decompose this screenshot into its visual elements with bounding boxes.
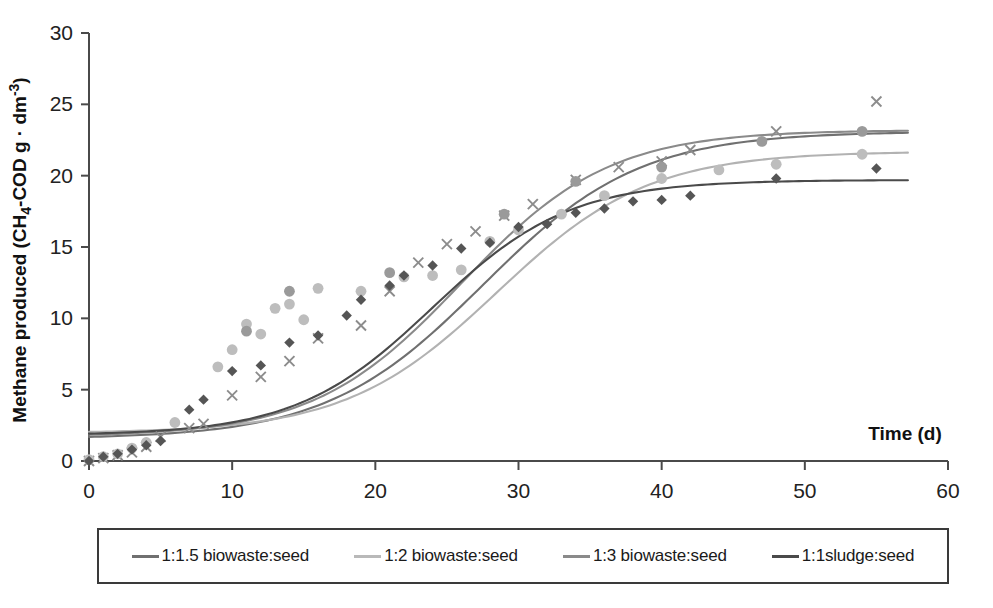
- fitted-curve: [89, 131, 908, 435]
- data-point: [155, 436, 165, 446]
- y-tick-label: 20: [50, 164, 73, 187]
- x-tick-label: 50: [793, 479, 816, 502]
- data-point: [356, 295, 366, 305]
- data-point: [628, 196, 638, 206]
- y-tick-label: 30: [50, 21, 73, 44]
- x-axis-ticks: 0102030405060: [83, 461, 960, 502]
- fitted-curve: [89, 133, 908, 437]
- data-point: [570, 176, 581, 187]
- data-point: [656, 162, 667, 173]
- x-axis-title: Time (d): [868, 423, 942, 444]
- data-point: [871, 163, 881, 173]
- data-point: [456, 243, 466, 253]
- x-tick-label: 30: [507, 479, 530, 502]
- x-tick-label: 20: [364, 479, 387, 502]
- y-tick-label: 10: [50, 306, 73, 329]
- data-point: [857, 149, 868, 160]
- data-markers-group: [84, 96, 882, 466]
- data-point: [871, 96, 881, 106]
- data-point: [342, 310, 352, 320]
- x-tick-label: 0: [83, 479, 95, 502]
- legend-entry-2[interactable]: 1:2 biowaste:seed: [354, 546, 518, 566]
- data-point: [857, 126, 868, 137]
- data-point: [656, 173, 667, 184]
- x-tick-label: 40: [650, 479, 673, 502]
- data-point: [241, 326, 252, 337]
- data-point: [427, 260, 437, 270]
- data-point: [256, 360, 266, 370]
- y-axis-ticks: 051015202530: [50, 21, 89, 472]
- legend-line-swatch: [772, 555, 799, 558]
- data-point: [384, 267, 395, 278]
- fitted-curves-group: [89, 131, 908, 437]
- data-point: [685, 190, 695, 200]
- data-point: [771, 159, 782, 170]
- legend-entry-3[interactable]: 1:3 biowaste:seed: [563, 546, 727, 566]
- data-point: [427, 270, 438, 281]
- data-point: [184, 404, 194, 414]
- data-point: [270, 303, 281, 314]
- legend-label: 1:1.5 biowaste:seed: [162, 546, 309, 566]
- legend-entry-1[interactable]: 1:1.5 biowaste:seed: [132, 546, 309, 566]
- y-axis-title: Methane produced (CH4-COD g · dm-3): [6, 77, 34, 422]
- legend-label: 1:3 biowaste:seed: [593, 546, 727, 566]
- x-tick-label: 60: [936, 479, 959, 502]
- legend-line-swatch: [563, 555, 590, 558]
- y-tick-label: 25: [50, 92, 73, 115]
- data-point: [284, 356, 294, 366]
- y-tick-label: 15: [50, 235, 73, 258]
- data-point: [313, 330, 323, 340]
- methane-production-chart: 051015202530 0102030405060 Methane produ…: [0, 0, 993, 608]
- data-point: [471, 226, 481, 236]
- data-point: [599, 190, 610, 201]
- data-point: [298, 314, 309, 325]
- data-point: [227, 344, 238, 355]
- legend-line-swatch: [132, 555, 159, 558]
- legend-entry-4[interactable]: 1:1sludge:seed: [772, 546, 915, 566]
- data-point: [198, 394, 208, 404]
- legend-line-swatch: [354, 555, 381, 558]
- legend-label: 1:2 biowaste:seed: [384, 546, 518, 566]
- fitted-curve: [89, 153, 908, 432]
- data-point: [227, 366, 237, 376]
- data-point: [212, 361, 223, 372]
- x-tick-label: 10: [220, 479, 243, 502]
- data-point: [313, 283, 324, 294]
- legend-label: 1:1sludge:seed: [802, 546, 915, 566]
- data-point: [256, 372, 266, 382]
- data-point: [556, 209, 567, 220]
- data-point: [714, 165, 725, 176]
- y-tick-label: 0: [61, 449, 73, 472]
- y-tick-label: 5: [61, 378, 73, 401]
- data-point: [456, 264, 467, 275]
- chart-legend: 1:1.5 biowaste:seed1:2 biowaste:seed1:3 …: [97, 528, 949, 584]
- data-point: [756, 136, 767, 147]
- data-point: [170, 417, 181, 428]
- data-point: [284, 286, 295, 297]
- data-point: [442, 239, 452, 249]
- data-point: [656, 195, 666, 205]
- data-point: [284, 337, 294, 347]
- chart-canvas: 051015202530 0102030405060 Methane produ…: [0, 0, 993, 608]
- fitted-curve: [89, 180, 908, 433]
- data-point: [284, 299, 295, 310]
- data-point: [413, 258, 423, 268]
- data-point: [255, 329, 266, 340]
- data-point: [499, 209, 510, 220]
- data-point: [356, 320, 366, 330]
- data-point: [384, 280, 394, 290]
- data-point: [528, 199, 538, 209]
- data-point: [227, 390, 237, 400]
